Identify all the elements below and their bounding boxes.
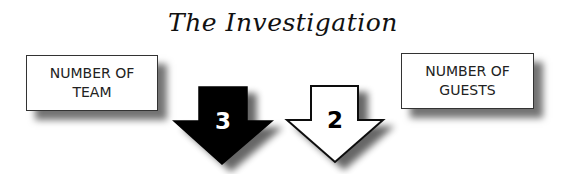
guests-count-value: 2 bbox=[327, 107, 343, 133]
team-count-value: 3 bbox=[215, 108, 231, 134]
arrows-layer: 3 2 bbox=[0, 0, 566, 174]
guests-down-arrow-icon: 2 bbox=[287, 86, 383, 162]
team-down-arrow-icon: 3 bbox=[174, 87, 272, 164]
